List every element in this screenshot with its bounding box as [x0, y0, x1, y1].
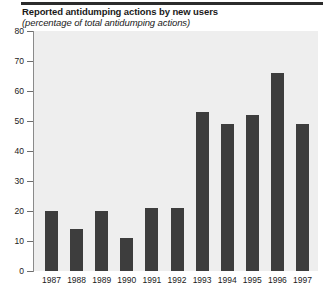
bar: [95, 211, 108, 271]
y-axis-tick: [27, 61, 33, 62]
y-axis-tick-label: 60: [0, 86, 24, 96]
chart-title: Reported antidumping actions by new user…: [22, 6, 218, 17]
x-axis-tick-label: 1997: [286, 275, 320, 285]
bar: [271, 73, 284, 271]
y-axis-tick: [27, 271, 33, 272]
y-axis-tick-label: 40: [0, 146, 24, 156]
chart-subtitle: (percentage of total antidumping actions…: [22, 17, 190, 28]
y-axis-tick-label: 50: [0, 116, 24, 126]
y-axis-tick-label: 10: [0, 236, 24, 246]
y-axis-line: [33, 31, 34, 272]
y-axis-tick: [27, 181, 33, 182]
y-axis-tick: [27, 121, 33, 122]
bar: [221, 124, 234, 271]
chart-figure: Reported antidumping actions by new user…: [0, 0, 323, 300]
y-axis-tick: [27, 91, 33, 92]
bar: [171, 208, 184, 271]
bar: [145, 208, 158, 271]
y-axis-tick: [27, 211, 33, 212]
bar: [70, 229, 83, 271]
y-axis-tick: [27, 31, 33, 32]
y-axis-tick: [27, 151, 33, 152]
bar: [246, 115, 259, 271]
y-axis-tick-label: 0: [0, 266, 24, 276]
plot-area: [33, 31, 318, 271]
y-axis-tick: [27, 241, 33, 242]
bar: [45, 211, 58, 271]
y-axis-tick-label: 70: [0, 56, 24, 66]
y-axis-tick-label: 30: [0, 176, 24, 186]
bar: [296, 124, 309, 271]
bar: [196, 112, 209, 271]
y-axis-tick-label: 20: [0, 206, 24, 216]
bar: [120, 238, 133, 271]
header-rule: [21, 2, 323, 5]
y-axis-tick-label: 80: [0, 26, 24, 36]
